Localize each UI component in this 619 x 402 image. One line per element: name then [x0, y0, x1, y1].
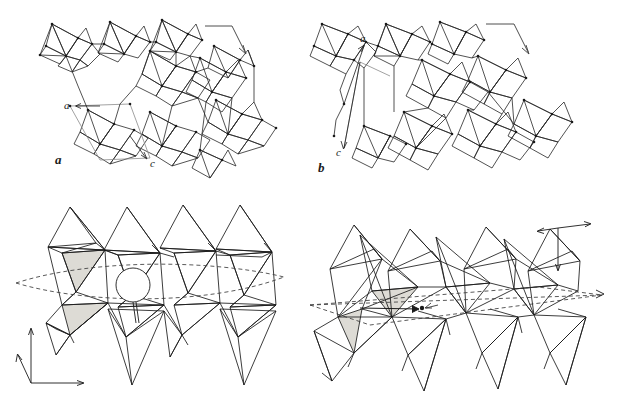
connector-edges	[334, 42, 514, 148]
tetrahedron	[408, 319, 450, 391]
polyhedron-cluster	[74, 110, 148, 164]
panel-d: τ = c 2 A c glide a c b d	[300, 195, 619, 402]
tetrahedron	[164, 311, 188, 357]
polyhedron-cluster	[388, 112, 452, 170]
polyhedron-cluster	[462, 56, 526, 114]
orientation-indicator-icon	[205, 26, 246, 54]
cell-outline	[344, 62, 390, 148]
panel-b-structure	[300, 0, 619, 201]
polyhedron-cluster	[186, 58, 246, 112]
axis-label-c: c	[150, 157, 155, 169]
axis-arrow-c	[341, 62, 360, 149]
tetrahedron	[330, 225, 382, 269]
tetrahedron	[482, 317, 522, 389]
panel-a: a c a	[0, 0, 310, 201]
tetrahedron	[466, 309, 518, 369]
polyhedron-cluster	[452, 110, 534, 168]
polyhedron-cluster	[192, 150, 236, 178]
axis-arrow-c	[130, 136, 147, 159]
polyhedron-cluster	[508, 100, 572, 158]
tetrahedron	[220, 309, 276, 385]
tetrahedron	[174, 293, 220, 335]
tetrahedron	[528, 229, 580, 271]
polyhedron-cluster	[40, 24, 100, 72]
tetrahedron	[216, 205, 272, 252]
panel-label-b: b	[318, 160, 325, 176]
polyhedron-cluster	[428, 22, 484, 64]
panel-b: a c b	[300, 0, 619, 201]
panel-label-a: a	[55, 152, 62, 168]
axis-label-c: c	[336, 146, 341, 158]
orientation-indicator-icon	[486, 24, 529, 54]
panel-a-structure	[0, 0, 310, 201]
tetrahedron	[392, 311, 446, 371]
panel-d-structure	[300, 195, 619, 402]
polyhedron-cluster	[208, 46, 254, 78]
tetrahedron	[504, 239, 558, 315]
tetrahedron	[464, 227, 516, 269]
panel-c: A Mirror b a c c	[0, 195, 310, 402]
axis-arrow-a	[344, 45, 365, 104]
vertex-dots	[39, 19, 278, 162]
polyhedron-cluster	[310, 24, 376, 74]
tetrahedron	[534, 309, 586, 369]
site-marker-A	[420, 303, 438, 310]
tetrahedron	[104, 207, 160, 253]
tetrahedron	[160, 205, 216, 251]
tetrahedron	[436, 237, 490, 313]
axis-label-a: a	[64, 99, 70, 111]
site-circle-A	[116, 268, 150, 323]
figure-canvas: a c a	[0, 0, 619, 402]
tetrahedron	[388, 229, 440, 271]
polyhedron-cluster	[202, 100, 276, 154]
axis-label-a: a	[360, 32, 366, 44]
tetrahedron	[550, 317, 586, 385]
panel-c-structure	[0, 195, 310, 402]
tetrahedron	[230, 252, 272, 307]
tetrahedron	[48, 207, 105, 250]
framework-lines	[338, 259, 578, 353]
polyhedron-cluster	[98, 22, 150, 62]
axis-arrow-a	[76, 104, 101, 109]
polyhedron-cluster	[352, 126, 406, 168]
